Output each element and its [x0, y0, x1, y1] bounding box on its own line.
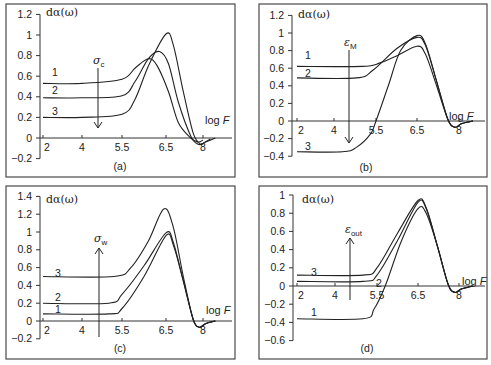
y-tick-label: 0.2: [269, 97, 284, 109]
parameter-label: σw: [94, 232, 108, 247]
y-tick-label: 1.2: [269, 9, 284, 21]
y-tick-label: −0.2: [264, 298, 285, 310]
x-tick-label: 2: [298, 124, 304, 136]
curve-3: [43, 33, 215, 145]
x-tick-label: 6.5: [410, 124, 425, 136]
curve-2: [297, 37, 473, 127]
series-group: 123: [43, 209, 215, 328]
panel-label: (c): [114, 342, 126, 354]
curve-label: 1: [55, 303, 61, 315]
y-tick-label: −0.2: [263, 132, 284, 144]
y-axis: 1.210.80.60.40.20−0.2: [11, 8, 40, 164]
x-tick-label: 2: [298, 289, 304, 301]
curve-3: [297, 35, 473, 152]
y-tick-label: 0.6: [270, 225, 285, 237]
curve-label: 3: [55, 267, 61, 279]
curve-label: 3: [311, 266, 317, 278]
curve-3: [297, 199, 473, 293]
curve-label: 2: [376, 277, 382, 289]
y-tick-label: 0.2: [270, 261, 285, 273]
y-tick-label: 1.2: [17, 208, 32, 220]
parameter-arrow: εM: [344, 36, 357, 143]
y-tick-label: 1: [279, 189, 285, 201]
x-tick-label: 6.5: [159, 141, 174, 153]
y-tick-label: 0.6: [17, 70, 32, 82]
curve-label: 2: [52, 84, 58, 96]
x-tick-label: 6.5: [411, 289, 426, 301]
curve-label: 3: [305, 140, 311, 152]
y-tick-label: 1.2: [17, 8, 32, 20]
y-tick-label: 0.4: [269, 79, 284, 91]
y-tick-label: −0.6: [264, 334, 285, 346]
parameter-label: σc: [93, 54, 105, 69]
y-tick-label: 0.8: [17, 243, 32, 255]
panel-label: (a): [114, 160, 127, 172]
y-tick-label: 1: [26, 29, 32, 41]
y-tick-label: 0.8: [270, 207, 285, 219]
x-axis-title: log F: [205, 114, 231, 126]
y-tick-label: 0.8: [269, 44, 284, 56]
x-axis-title: log F: [206, 304, 232, 316]
panel-d: 10.80.60.40.20−0.2−0.4−0.6245.56.58log F…: [259, 186, 488, 359]
series-group: 123: [297, 35, 473, 152]
x-tick-label: 5.5: [115, 141, 130, 153]
series-group: 123: [297, 199, 473, 320]
panel-b: 1.210.80.60.40.20−0.2−0.4245.56.58log Fd…: [259, 4, 487, 177]
panel-c: 1.41.210.80.60.40.20−0.2245.56.58log Fdα…: [6, 186, 235, 359]
y-tick-label: 0.6: [17, 261, 32, 273]
x-tick-label: 5.5: [370, 289, 385, 301]
y-tick-label: 0.2: [17, 111, 32, 123]
x-tick-label: 2: [44, 324, 50, 336]
curve-2: [43, 232, 215, 328]
y-tick-label: 1: [26, 226, 32, 238]
y-axis-title: dα(ω): [298, 8, 330, 21]
y-tick-label: −0.2: [11, 152, 32, 164]
y-tick-label: 0: [279, 280, 285, 292]
curve-3: [43, 209, 215, 328]
x-tick-label: 2: [44, 141, 50, 153]
y-tick-label: 0: [26, 132, 32, 144]
y-tick-label: 1: [278, 27, 284, 39]
curve-label: 1: [52, 66, 58, 78]
y-tick-label: 0.4: [17, 90, 32, 102]
panel-a: 1.210.80.60.40.20−0.2245.56.58log Fdα(ω)…: [6, 4, 235, 177]
curve-label: 1: [311, 306, 317, 318]
x-tick-label: 6.5: [159, 324, 174, 336]
curve-1: [43, 234, 215, 327]
y-tick-label: 0: [26, 315, 32, 327]
y-tick-label: −0.2: [11, 332, 32, 344]
parameter-arrow: εout: [345, 223, 363, 300]
parameter-label: εout: [345, 223, 363, 238]
series-group: 123: [43, 33, 215, 145]
panel-label: (b): [360, 161, 373, 173]
curve-label: 3: [52, 105, 58, 117]
x-axis: 245.56.58: [40, 318, 232, 336]
panel-frame: [259, 4, 487, 177]
y-tick-label: 0.4: [17, 279, 32, 291]
y-axis: 1.41.210.80.60.40.20−0.2: [11, 190, 40, 344]
y-tick-label: 0.2: [17, 297, 32, 309]
y-axis: 10.80.60.40.20−0.2−0.4−0.6: [264, 189, 293, 347]
y-axis: 1.210.80.60.40.20−0.2−0.4: [263, 9, 292, 162]
x-tick-label: 5.5: [115, 324, 130, 336]
curve-label: 2: [305, 67, 311, 79]
panel-label: (d): [361, 342, 374, 354]
curve-label: 1: [305, 49, 311, 61]
x-tick-label: 4: [332, 289, 338, 301]
x-axis-title: log F: [462, 275, 488, 287]
y-tick-label: 0.8: [17, 49, 32, 61]
y-tick-label: 0: [278, 115, 284, 127]
curve-2: [43, 51, 210, 144]
x-tick-label: 4: [79, 324, 85, 336]
y-tick-label: −0.4: [264, 316, 285, 328]
y-axis-title: dα(ω): [46, 6, 78, 19]
y-tick-label: 0.6: [269, 62, 284, 74]
y-tick-label: 0.4: [270, 243, 285, 255]
x-tick-label: 4: [331, 124, 337, 136]
y-tick-label: −0.4: [263, 150, 284, 162]
x-tick-label: 4: [79, 141, 85, 153]
y-tick-label: 1.4: [17, 190, 32, 202]
x-axis-title: log F: [449, 110, 475, 122]
curve-label: 2: [55, 291, 61, 303]
parameter-label: εM: [344, 36, 357, 51]
